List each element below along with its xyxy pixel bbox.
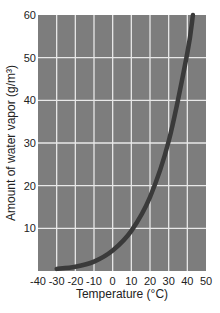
x-tick-label: 20 — [144, 275, 156, 287]
x-tick-label: -40 — [30, 275, 46, 287]
y-axis-label: Amount of water vapor (g/m³) — [4, 65, 18, 221]
y-axis-ticks: 102030405060 — [24, 9, 36, 234]
x-tick-label: 40 — [181, 275, 193, 287]
y-tick-label: 40 — [24, 94, 36, 106]
x-tick-label: 0 — [110, 275, 116, 287]
x-axis-ticks: -40-30-20-1001020304050 — [30, 275, 212, 287]
y-tick-label: 50 — [24, 52, 36, 64]
x-axis-label: Temperature (°C) — [76, 287, 168, 301]
x-tick-label: -30 — [49, 275, 65, 287]
y-tick-label: 60 — [24, 9, 36, 21]
y-tick-label: 10 — [24, 222, 36, 234]
x-tick-label: 50 — [200, 275, 212, 287]
x-tick-label: 10 — [125, 275, 137, 287]
y-tick-label: 30 — [24, 137, 36, 149]
chart: -40-30-20-1001020304050 102030405060 Tem… — [0, 0, 220, 313]
x-tick-label: -10 — [86, 275, 102, 287]
x-tick-label: -20 — [67, 275, 83, 287]
y-tick-label: 20 — [24, 180, 36, 192]
x-tick-label: 30 — [163, 275, 175, 287]
